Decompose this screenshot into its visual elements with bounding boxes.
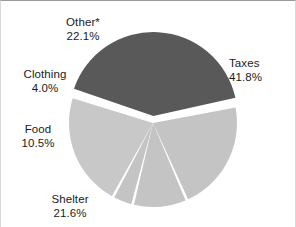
slice-label-other-name: Other* <box>48 15 118 29</box>
slice-label-shelter-percent: 21.6% <box>33 206 107 220</box>
slice-label-other: Other* 22.1% <box>48 15 118 43</box>
slice-label-food-percent: 10.5% <box>7 136 69 150</box>
slice-label-taxes-name: Taxes <box>229 56 293 70</box>
pie-slice-taxes <box>74 32 235 116</box>
slice-label-clothing: Clothing 4.0% <box>9 67 81 95</box>
slice-label-other-percent: 22.1% <box>48 29 118 43</box>
slice-label-clothing-percent: 4.0% <box>9 81 81 95</box>
slice-label-food-name: Food <box>7 122 69 136</box>
slice-label-taxes: Taxes 41.8% <box>229 56 293 84</box>
slice-label-food: Food 10.5% <box>7 122 69 150</box>
pie-chart-figure: Other* 22.1% Clothing 4.0% Food 10.5% Sh… <box>0 0 296 227</box>
slice-label-taxes-percent: 41.8% <box>229 70 293 84</box>
slice-label-shelter-name: Shelter <box>33 192 107 206</box>
slice-label-clothing-name: Clothing <box>9 67 81 81</box>
pie-slices-group <box>69 32 237 207</box>
slice-label-shelter: Shelter 21.6% <box>33 192 107 220</box>
